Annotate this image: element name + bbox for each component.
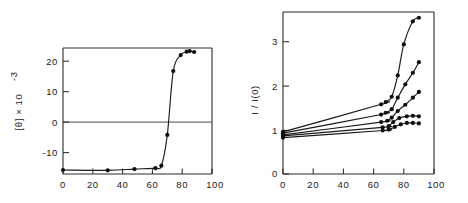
data-point bbox=[390, 107, 394, 111]
left-y-axis-label: [θ] × 10 -3 bbox=[8, 71, 24, 130]
data-point bbox=[106, 168, 110, 172]
data-point bbox=[381, 128, 385, 132]
data-point bbox=[179, 53, 183, 57]
figure-svg: [θ] × 10 -3 20 10 0 -10 bbox=[0, 0, 468, 203]
right-x-tick-100: 100 bbox=[427, 179, 445, 190]
left-y-ticks bbox=[63, 61, 69, 152]
data-point bbox=[417, 90, 421, 94]
right-x-tick-20: 20 bbox=[307, 179, 319, 190]
data-point bbox=[281, 136, 285, 140]
figure-container: [θ] × 10 -3 20 10 0 -10 bbox=[0, 0, 468, 203]
data-point bbox=[405, 121, 409, 125]
data-point bbox=[393, 125, 397, 129]
right-y-ticks bbox=[283, 42, 289, 174]
left-y-axis-label-text: [θ] × 10 bbox=[13, 94, 24, 131]
left-y-tick-20: 20 bbox=[46, 56, 58, 67]
right-panel: I / I(0) 3 2 1 0 bbox=[249, 12, 445, 190]
data-point bbox=[387, 128, 391, 132]
left-x-tick-40: 40 bbox=[117, 179, 129, 190]
data-point bbox=[379, 102, 383, 106]
left-plot-frame bbox=[63, 48, 212, 174]
data-point bbox=[159, 164, 163, 168]
data-point bbox=[417, 114, 421, 118]
left-panel: [θ] × 10 -3 20 10 0 -10 bbox=[8, 48, 224, 190]
left-x-tick-100: 100 bbox=[206, 179, 224, 190]
data-point bbox=[165, 133, 169, 137]
data-point bbox=[379, 112, 383, 116]
data-point bbox=[379, 120, 383, 124]
left-y-tick-10: 10 bbox=[46, 86, 58, 97]
data-point bbox=[61, 168, 65, 172]
data-point bbox=[188, 49, 192, 53]
data-point bbox=[411, 114, 415, 118]
data-point bbox=[153, 166, 157, 170]
data-point bbox=[411, 71, 415, 75]
data-point bbox=[403, 103, 407, 107]
data-point bbox=[171, 69, 175, 73]
data-point bbox=[132, 167, 136, 171]
right-x-tick-60: 60 bbox=[368, 179, 380, 190]
data-point bbox=[384, 100, 388, 104]
data-point bbox=[391, 120, 395, 124]
left-y-tick-neg10: -10 bbox=[42, 147, 58, 158]
left-x-tick-0: 0 bbox=[60, 179, 66, 190]
data-point bbox=[402, 42, 406, 46]
data-point bbox=[417, 16, 421, 20]
data-point bbox=[411, 19, 415, 23]
data-point bbox=[411, 121, 415, 125]
left-y-tick-0: 0 bbox=[52, 117, 58, 128]
right-x-tick-0: 0 bbox=[280, 179, 286, 190]
right-y-axis-label-text: I / I(0) bbox=[249, 85, 260, 115]
left-curve-ellipticity bbox=[63, 51, 194, 170]
left-x-tick-20: 20 bbox=[87, 179, 99, 190]
data-point bbox=[192, 50, 196, 54]
right-y-axis-label: I / I(0) bbox=[249, 85, 260, 115]
left-points-ellipticity bbox=[61, 49, 196, 172]
data-point bbox=[417, 60, 421, 64]
right-plot-frame bbox=[283, 12, 434, 174]
data-point bbox=[411, 96, 415, 100]
data-point bbox=[397, 116, 401, 120]
right-y-tick-2: 2 bbox=[272, 81, 278, 92]
left-y-axis-label-exponent: -3 bbox=[8, 71, 19, 81]
right-y-tick-3: 3 bbox=[272, 36, 278, 47]
data-point bbox=[384, 111, 388, 115]
data-point bbox=[390, 116, 394, 120]
right-y-tick-1: 1 bbox=[272, 125, 278, 136]
right-data-layer bbox=[281, 16, 421, 140]
data-point bbox=[385, 119, 389, 123]
right-x-tick-40: 40 bbox=[338, 179, 350, 190]
right-x-ticks bbox=[283, 169, 434, 175]
data-point bbox=[405, 114, 409, 118]
left-data-layer bbox=[61, 49, 196, 172]
data-point bbox=[396, 109, 400, 113]
left-x-tick-60: 60 bbox=[147, 179, 159, 190]
right-y-tick-0: 0 bbox=[272, 168, 278, 179]
data-point bbox=[403, 82, 407, 86]
data-point bbox=[399, 122, 403, 126]
right-x-tick-80: 80 bbox=[398, 179, 410, 190]
data-point bbox=[417, 121, 421, 125]
left-x-tick-80: 80 bbox=[176, 179, 188, 190]
data-point bbox=[396, 96, 400, 100]
data-point bbox=[390, 95, 394, 99]
data-point bbox=[396, 73, 400, 77]
